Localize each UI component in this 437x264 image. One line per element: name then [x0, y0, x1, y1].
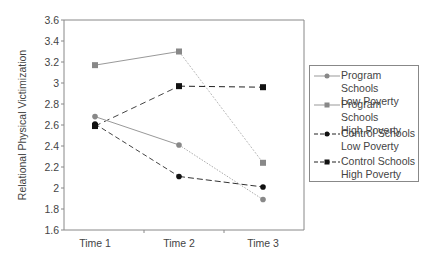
y-tick-label: 2.8 [44, 98, 59, 110]
legend-item-control-low: Control SchoolsLow Poverty [310, 127, 418, 155]
markers [92, 114, 266, 203]
y-tick-label: 3 [53, 77, 59, 89]
legend-label: Control SchoolsHigh Poverty [341, 155, 415, 181]
y-tick-label: 2.2 [44, 161, 59, 173]
legend-item-control-high: Control SchoolsHigh Poverty [310, 155, 418, 183]
y-tick-label: 2 [53, 182, 59, 194]
square-marker-icon [314, 100, 340, 110]
square-marker-icon [260, 84, 266, 90]
y-tick-label: 3.2 [44, 56, 59, 68]
circle-marker-icon [92, 121, 98, 127]
legend-label: Control SchoolsLow Poverty [341, 127, 415, 153]
x-axis-ticks: Time 1Time 2Time 3 [79, 230, 279, 249]
square-marker-icon [92, 62, 98, 68]
markers [92, 49, 266, 166]
y-axis-ticks: 1.61.822.22.42.62.833.23.43.6 [44, 14, 64, 236]
circle-marker-icon [260, 197, 266, 203]
circle-marker-icon [92, 114, 98, 120]
legend: Program SchoolsLow Poverty Program Schoo… [309, 65, 419, 182]
circle-marker-icon [176, 142, 182, 148]
square-marker-icon [176, 83, 182, 89]
y-tick-label: 3.4 [44, 35, 59, 47]
legend-item-program-high: Program SchoolsHigh Poverty [310, 98, 418, 126]
series-control-schools-high-poverty [95, 86, 263, 126]
x-tick-label: Time 1 [79, 237, 111, 249]
square-marker-icon [260, 160, 266, 166]
series-group [92, 49, 266, 203]
series-program-schools-low-poverty [95, 117, 263, 200]
markers [92, 121, 266, 190]
y-tick-label: 1.8 [44, 203, 59, 215]
legend-item-program-low: Program SchoolsLow Poverty [310, 69, 418, 97]
square-marker-icon [176, 49, 182, 55]
x-tick-label: Time 3 [247, 237, 279, 249]
plot-frame [64, 20, 304, 230]
y-axis-title: Relational Physical Victimization [16, 50, 28, 201]
y-tick-label: 3.6 [44, 14, 59, 26]
markers [92, 83, 266, 129]
circle-marker-icon [314, 71, 340, 81]
y-tick-label: 2.4 [44, 140, 59, 152]
x-tick-label: Time 2 [163, 237, 195, 249]
y-tick-label: 1.6 [44, 224, 59, 236]
circle-marker-icon [314, 129, 340, 139]
circle-marker-icon [176, 174, 182, 180]
y-tick-label: 2.6 [44, 119, 59, 131]
square-marker-icon [314, 157, 340, 167]
circle-marker-icon [260, 184, 266, 190]
